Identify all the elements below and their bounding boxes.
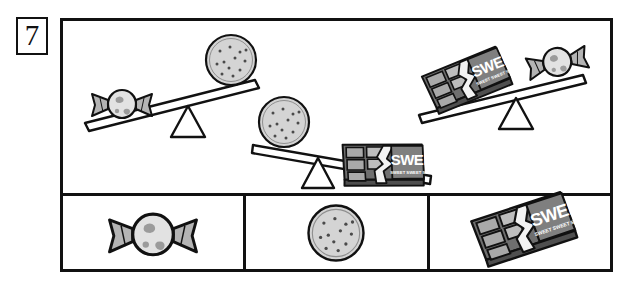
question-frame: SWEET SWEET SWEET SWEET SWEET: [60, 18, 613, 272]
worksheet-page: 7: [0, 0, 629, 284]
balance-scales-panel: SWEET SWEET SWEET SWEET SWEET: [63, 21, 610, 196]
cookie-icon: [281, 201, 391, 265]
scale-2-right-item-chocolate: [336, 131, 458, 196]
question-number: 7: [25, 21, 40, 50]
chocolate-bar-icon: [455, 199, 585, 267]
candy-icon: [98, 201, 208, 265]
question-number-box: 7: [16, 17, 48, 55]
answer-box-chocolate[interactable]: Chocolate bar: [427, 196, 610, 269]
answer-box-cookie[interactable]: Cookie: [243, 196, 426, 269]
scale-1-right-item-cookie: [206, 35, 256, 85]
answer-box-candy[interactable]: Candy: [63, 196, 243, 269]
answer-boxes-row: Candy Cookie Chocolate bar: [63, 196, 610, 269]
scale-1-fulcrum: [171, 106, 205, 137]
scale-2-left-item-cookie: [259, 97, 309, 147]
balance-scale-3: [415, 31, 605, 136]
